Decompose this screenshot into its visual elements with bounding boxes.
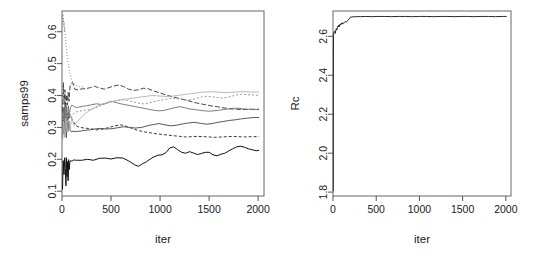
y-tick-label: 2.4 — [317, 68, 329, 83]
y-tick-label: 0.6 — [46, 24, 58, 39]
trace-line-chain-8-burnin — [62, 14, 83, 87]
y-tick-label: 2.6 — [317, 29, 329, 44]
x-axis-title: iter — [414, 233, 430, 245]
x-tick-label: 1000 — [148, 203, 172, 215]
y-tick-label: 2.2 — [317, 107, 329, 122]
chart-panel-samps99: 05001000150020000.10.20.30.40.50.6itersa… — [0, 0, 275, 262]
x-tick-label: 1500 — [197, 203, 221, 215]
trace-line-chain-7 — [62, 92, 259, 144]
x-tick-label: 2000 — [494, 203, 518, 215]
x-tick-label: 1500 — [451, 203, 475, 215]
trace-line-chain-2 — [62, 108, 259, 138]
x-tick-label: 0 — [59, 203, 65, 215]
x-tick-label: 500 — [367, 203, 385, 215]
trace-line-chain-6 — [62, 94, 259, 132]
y-tick-label: 0.3 — [46, 120, 58, 135]
trace-line-Rc — [333, 16, 506, 191]
trace-line-chain-3 — [62, 114, 259, 140]
trace-line-chain-1 — [62, 146, 259, 189]
y-tick-label: 1.8 — [317, 185, 329, 200]
plot-box — [333, 11, 511, 196]
trace-line-chain-5 — [62, 101, 259, 127]
chart-svg-right: 05001000150020001.82.02.22.42.6iterRc — [275, 0, 550, 262]
plot-box — [62, 11, 264, 196]
x-tick-label: 1000 — [408, 203, 432, 215]
y-tick-label: 0.4 — [46, 88, 58, 103]
y-axis-title: samps99 — [18, 80, 30, 127]
x-axis-title: iter — [155, 233, 171, 245]
x-tick-label: 2000 — [246, 203, 270, 215]
y-tick-label: 0.1 — [46, 184, 58, 199]
y-tick-label: 0.5 — [46, 56, 58, 71]
x-tick-label: 500 — [102, 203, 120, 215]
y-tick-label: 0.2 — [46, 152, 58, 167]
x-tick-label: 0 — [330, 203, 336, 215]
figure-root: 05001000150020000.10.20.30.40.50.6itersa… — [0, 0, 550, 262]
y-tick-label: 2.0 — [317, 146, 329, 161]
y-axis-title: Rc — [289, 96, 301, 110]
chart-svg-left: 05001000150020000.10.20.30.40.50.6itersa… — [0, 0, 275, 262]
chart-panel-rc: 05001000150020001.82.02.22.42.6iterRc — [275, 0, 550, 262]
